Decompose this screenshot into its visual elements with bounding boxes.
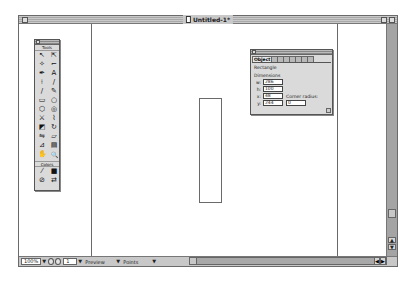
horizontal-scroll-thumb[interactable] [190,258,197,264]
horizontal-scroll-arrows: ◀ ▶ [374,257,386,265]
chart-tool-icon[interactable]: ▤ [48,141,60,150]
close-box[interactable] [22,17,28,23]
rotate-tool-icon[interactable]: ↻ [48,123,60,132]
collapse-box[interactable] [389,17,395,23]
zoom-tool-icon[interactable]: 🔍 [48,150,60,159]
dimension-label-w: w: [254,80,263,85]
window-title-text: Untitled-1* [193,15,230,24]
object-inspector-panel: Object Rectangle Dimensions w: 286 h: 10… [250,49,333,115]
object-type-label: Rectangle [254,65,329,70]
dimension-row-h: h: 100 [254,86,332,92]
rectangle-shape[interactable] [199,98,222,203]
fill-color-icon[interactable]: ■ [48,167,60,176]
spiral-tool-icon[interactable]: ◎ [48,105,60,114]
vertical-scrollbar[interactable]: ▲ ▼ [386,24,397,258]
tools-palette-close-box[interactable] [36,40,40,44]
corner-radius-label: Corner radius: [286,94,318,99]
width-input[interactable]: 286 [263,79,283,85]
page-edge-right [337,24,338,258]
text-tool-icon[interactable]: A [48,69,60,78]
object-panel-close-box[interactable] [252,50,256,54]
tools-palette-titlebar[interactable] [35,40,59,45]
scroll-down-arrow-icon[interactable]: ▼ [388,244,396,250]
page-dropdown-icon[interactable]: ▼ [77,258,83,265]
document-window: Untitled-1* ▲ ▼ 100% ▼ 1 ▼ Preview ▼ Poi… [18,15,398,267]
height-input[interactable]: 100 [263,86,283,92]
object-panel-titlebar[interactable] [251,50,332,55]
view-mode-dropdown-icon[interactable]: ▼ [115,258,121,265]
rectangle-tool-icon[interactable]: ▭ [36,96,48,105]
pointer-tool-icon[interactable]: ↖ [36,51,48,60]
resize-grip-icon[interactable] [326,108,331,113]
document-icon [186,16,191,23]
scale-tool-icon[interactable]: ◩ [36,123,48,132]
y-input[interactable]: 244 [263,100,283,106]
horizontal-scrollbar[interactable] [189,257,387,265]
pen-tool-icon[interactable]: ✒ [36,69,48,78]
tool-grid: ↖ ⇱ ✧ ⌐ ✒ A ⟊ / ∕ ✎ ▭ ○ ⬡ ◎ ⚔ ⌇ ◩ ↻ ⇋ ▱ … [35,51,59,159]
dimension-label-x: x: [254,94,263,99]
scroll-right-arrow-icon[interactable]: ▶ [380,257,386,265]
no-color-icon[interactable]: ⊘ [36,176,48,185]
trace-tool-icon[interactable]: ⌇ [48,114,60,123]
swap-colors-icon[interactable]: ⇄ [48,176,60,185]
page-field[interactable]: 1 [63,258,77,265]
freeform-tool-icon[interactable]: ∕ [36,87,48,96]
dimension-row-w: w: 286 [254,79,332,85]
inspector-tabs: Object [252,56,331,63]
next-page-button[interactable] [55,258,61,265]
view-mode-select[interactable]: Preview [85,259,115,265]
pencil-tool-icon[interactable]: ✎ [48,87,60,96]
zoom-dropdown-icon[interactable]: ▼ [41,258,47,265]
tab-object[interactable]: Object [252,56,272,62]
units-dropdown-icon[interactable]: ▼ [151,258,157,265]
title-bar[interactable]: Untitled-1* [19,16,397,24]
tools-palette: Tools ↖ ⇱ ✧ ⌐ ✒ A ⟊ / ∕ ✎ ▭ ○ ⬡ ◎ ⚔ ⌇ ◩ … [34,39,60,191]
window-title: Untitled-1* [183,15,233,24]
skew-tool-icon[interactable]: ▱ [48,132,60,141]
knife-tool-icon[interactable]: ⚔ [36,114,48,123]
polygon-tool-icon[interactable]: ⬡ [36,105,48,114]
x-input[interactable]: 48 [263,93,283,99]
lasso-tool-icon[interactable]: ✧ [36,60,48,69]
bezigon-tool-icon[interactable]: ⟊ [36,78,48,87]
page-edge-left [91,24,92,258]
units-select[interactable]: Points [123,259,151,265]
dimension-row-y: y: 244 0 [254,100,332,106]
dimension-label-y: y: [254,101,263,106]
prev-page-button[interactable] [48,258,54,265]
hand-tool-icon[interactable]: ✋ [36,150,48,159]
eyedropper-tool-icon[interactable]: ⊿ [36,141,48,150]
color-tool-grid: ⁄ ■ ⊘ ⇄ [35,167,59,185]
scroll-up-arrow-icon[interactable]: ▲ [388,237,396,243]
vertical-scroll-thumb[interactable] [388,209,396,218]
tab-swatches[interactable] [307,56,314,62]
dimension-row-x: x: 48 Corner radius: [254,93,332,99]
zoom-box[interactable] [381,17,387,23]
dimensions-section-label: Dimensions [254,73,329,78]
crop-tool-icon[interactable]: ⌐ [48,60,60,69]
corner-radius-input[interactable]: 0 [286,100,306,106]
zoom-field[interactable]: 100% [21,258,41,265]
dimension-label-h: h: [254,87,263,92]
reflect-tool-icon[interactable]: ⇋ [36,132,48,141]
line-tool-icon[interactable]: / [48,78,60,87]
ellipse-tool-icon[interactable]: ○ [48,96,60,105]
subselect-tool-icon[interactable]: ⇱ [48,51,60,60]
stroke-color-icon[interactable]: ⁄ [36,167,48,176]
